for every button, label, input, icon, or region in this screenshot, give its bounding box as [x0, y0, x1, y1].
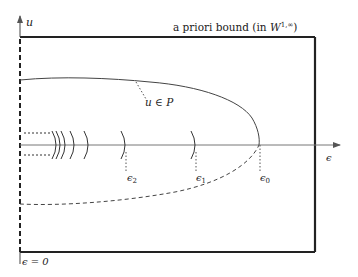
epsilon-0-label: ϵ0: [260, 172, 270, 185]
upper-branch-curve: [20, 78, 259, 145]
lower-branch-curve: [20, 145, 259, 205]
u-axis-label: u: [26, 16, 33, 29]
epsilon-axis-label: ϵ: [326, 152, 332, 163]
branch-label: u ∈ P: [145, 96, 174, 108]
a-priori-bound-label: a priori bound (in W1,∞): [173, 21, 297, 33]
epsilon-1-label: ϵ1: [196, 172, 206, 185]
bifurcation-diagram: u ϵ a priori bound (in W1,∞) u ∈ P ϵ2 ϵ1…: [0, 0, 358, 277]
epsilon-zero-label: ϵ = 0: [22, 256, 49, 267]
epsilon-2-label: ϵ2: [127, 172, 137, 185]
